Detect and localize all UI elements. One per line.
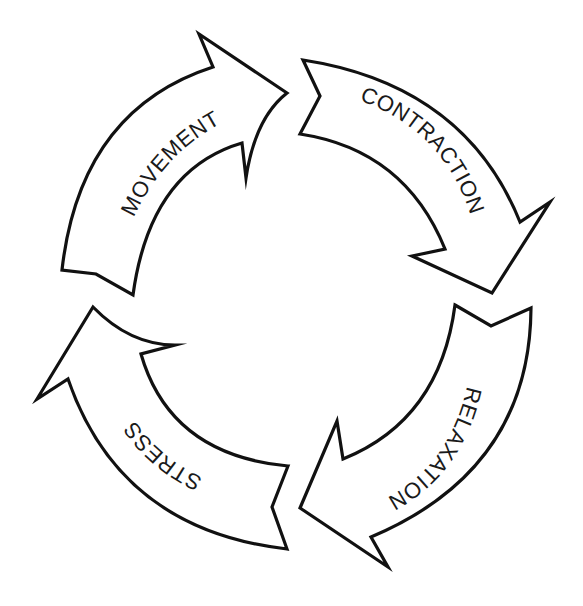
arrow-stress: STRESS xyxy=(37,307,288,549)
arrow-relaxation-shape xyxy=(300,305,531,567)
arrow-stress-shape xyxy=(37,307,288,549)
arrow-movement: MOVEMENT xyxy=(62,34,287,295)
cycle-diagram: MOVEMENT CONTRACTION RELAXATION STRESS xyxy=(0,0,583,606)
arrow-contraction: CONTRACTION xyxy=(300,60,550,293)
arrow-contraction-shape xyxy=(300,60,550,293)
arrow-relaxation: RELAXATION xyxy=(300,305,531,567)
